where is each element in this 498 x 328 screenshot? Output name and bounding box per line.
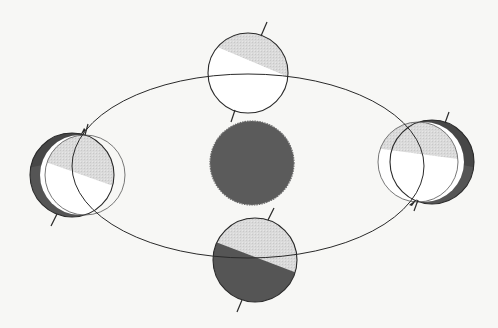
- axis-line: [268, 208, 274, 220]
- sun: [210, 121, 294, 205]
- earth-top: [200, 20, 300, 122]
- diagram-canvas: [0, 0, 498, 328]
- axis-line: [51, 214, 57, 226]
- axis-line: [261, 22, 267, 36]
- seasons-diagram: [0, 0, 498, 328]
- axis-line: [237, 300, 242, 312]
- axis-line: [445, 112, 449, 123]
- axis-line: [231, 110, 235, 122]
- earth-bottom: [205, 208, 305, 312]
- earth-right: [375, 112, 478, 211]
